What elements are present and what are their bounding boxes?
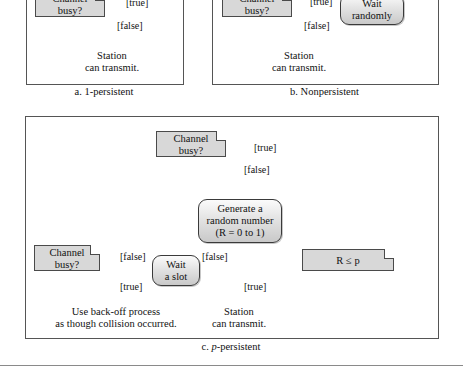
panel-a-channel-busy-note: Channel busy?: [35, 0, 105, 17]
panel-c-generate-random: Generate a random number (R = 0 to 1): [198, 199, 282, 243]
panel-c-top-channel-busy-line2: busy?: [179, 145, 204, 156]
panel-c-caption-text: -persistent: [217, 341, 261, 352]
panel-c-wait-slot-line2: a slot: [165, 271, 187, 282]
panel-c-channel-busy-note-left: Channel busy?: [34, 245, 100, 271]
panel-b-guard-false: [false]: [304, 20, 330, 31]
panel-c-generate-line3: (R = 0 to 1): [215, 227, 264, 238]
panel-a-station-transmit: Station can transmit.: [64, 50, 160, 74]
panel-c-wait-a-slot: Wait a slot: [152, 255, 200, 286]
panel-a-station-line2: can transmit.: [85, 62, 139, 73]
panel-b-channel-busy-line2: busy?: [245, 5, 270, 16]
panel-c-r-le-p-text: R ≤ p: [336, 255, 359, 267]
panel-c-guard-top-false: [false]: [244, 164, 270, 175]
panel-a-channel-busy-line2: busy?: [58, 5, 83, 16]
panel-c-guard-left-true: [true]: [120, 281, 142, 292]
panel-b-station-line2: can transmit.: [272, 62, 326, 73]
page-rule: [0, 365, 463, 366]
panel-c-left-channel-busy-line2: busy?: [55, 259, 80, 270]
panel-c-backoff-line1: Use back-off process: [72, 306, 160, 317]
panel-c-station-line2: can transmit.: [212, 318, 266, 329]
panel-a-guard-true: [true]: [126, 0, 148, 8]
panel-c-generate-line2: random number: [207, 215, 274, 226]
panel-b-station-transmit: Station can transmit.: [251, 50, 347, 74]
panel-c-backoff-text: Use back-off process as though collision…: [16, 306, 216, 330]
panel-a-station-line1: Station: [97, 50, 127, 61]
panel-a-channel-busy-line1: Channel: [53, 0, 88, 4]
panel-b-station-line1: Station: [284, 50, 314, 61]
panel-c-station-transmit: Station can transmit.: [191, 306, 287, 330]
panel-c-guard-top-true: [true]: [254, 142, 276, 153]
panel-b-channel-busy-line1: Channel: [240, 0, 275, 4]
panel-c-station-line1: Station: [224, 306, 254, 317]
panel-c-guard-rp-true: [true]: [244, 281, 266, 292]
panel-a-guard-false: [false]: [117, 20, 143, 31]
panel-b-caption-text: Nonpersistent: [301, 86, 359, 97]
panel-c-r-le-p-note: R ≤ p: [302, 249, 394, 271]
panel-b-guard-true: [true]: [310, 0, 332, 7]
panel-a-caption: a. 1-persistent: [26, 86, 182, 97]
panel-b-caption: b. Nonpersistent: [212, 86, 437, 97]
panel-b-caption-prefix: b.: [290, 86, 298, 97]
panel-c-caption-prefix: c.: [202, 341, 209, 352]
panel-b-wait-randomly-line2: randomly: [352, 10, 392, 21]
panel-b-wait-randomly-line1: Wait: [362, 0, 382, 9]
panel-a-caption-text: 1-persistent: [84, 86, 133, 97]
panel-b-wait-randomly: Wait randomly: [340, 0, 404, 25]
panel-a-caption-prefix: a.: [75, 86, 82, 97]
panel-c-guard-rp-false: [false]: [202, 251, 228, 262]
panel-c-caption: c. p-persistent: [25, 341, 437, 352]
panel-c-top-channel-busy-line1: Channel: [174, 133, 209, 144]
panel-c-left-channel-busy-line1: Channel: [50, 247, 85, 258]
panel-c-guard-left-false: [false]: [120, 251, 146, 262]
panel-c-backoff-line2: as though collision occurred.: [55, 318, 176, 329]
figure-canvas: Channel busy? [true] [false] Station can…: [0, 0, 463, 374]
panel-c-channel-busy-note-top: Channel busy?: [156, 131, 226, 157]
panel-c-wait-slot-line1: Wait: [166, 259, 186, 270]
panel-b-channel-busy-note: Channel busy?: [222, 0, 292, 17]
panel-c-generate-line1: Generate a: [217, 203, 262, 214]
